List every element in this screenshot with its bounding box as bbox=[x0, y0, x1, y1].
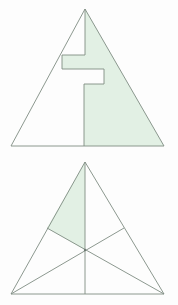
centroid-point bbox=[84, 249, 86, 251]
figure-canvas: Upper triangle divided by a staircase pa… bbox=[0, 0, 178, 305]
geometry-figure-svg bbox=[0, 0, 178, 305]
